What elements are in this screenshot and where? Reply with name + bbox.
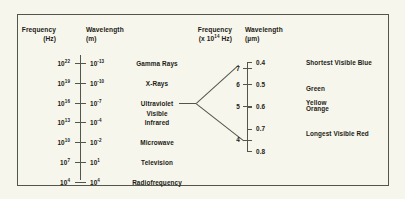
right-frequency-header-suffix: Hz) <box>220 35 233 42</box>
left-frequency-exponent: 10 <box>65 138 70 143</box>
left-wavelength-value: 104 <box>90 179 100 187</box>
spectrum-band-label: Infrared <box>145 119 170 127</box>
left-axis-tick <box>75 122 86 123</box>
left-wavelength-exponent: -10 <box>97 79 104 84</box>
visible-wavelength-tick <box>247 151 252 152</box>
spectrum-band-label: X-Rays <box>146 80 168 88</box>
visible-frequency-value: 5 <box>236 103 240 111</box>
visible-connector-stub <box>179 103 196 104</box>
visible-frequency-value: 4 <box>236 136 240 144</box>
spectrum-band-label: Radiofrequency <box>132 179 182 187</box>
left-wavelength-exponent: 4 <box>97 178 100 183</box>
visible-frequency-value: 7 <box>236 65 240 73</box>
spectrum-band-label-visible: Visible <box>146 110 167 118</box>
left-wavelength-exponent: -2 <box>97 138 101 143</box>
left-frequency-exponent: 22 <box>65 59 70 64</box>
left-wavelength-value: 101 <box>90 159 100 167</box>
left-frequency-header-line2: (Hz) <box>22 35 56 44</box>
visible-frequency-tick <box>243 140 252 141</box>
left-wavelength-header-line1: Wavelength <box>86 26 124 35</box>
left-frequency-header: Frequency (Hz) <box>22 26 56 43</box>
left-frequency-value: 1013 <box>57 119 70 127</box>
left-frequency-value: 1022 <box>57 60 70 68</box>
left-frequency-value: 1016 <box>57 100 70 108</box>
right-wavelength-header: Wavelength (µm) <box>245 26 283 43</box>
visible-wavelength-value: 0.6 <box>256 103 265 111</box>
left-axis-tick <box>75 103 86 104</box>
visible-wavelength-tick <box>247 107 252 108</box>
left-axis-tick <box>75 142 86 143</box>
left-axis-tick <box>75 182 86 183</box>
visible-wavelength-tick <box>247 129 252 130</box>
visible-frequency-tick <box>243 68 252 69</box>
spectrum-band-label: Gamma Rays <box>136 60 178 68</box>
visible-wavelength-value: 0.8 <box>256 148 265 156</box>
left-wavelength-exponent: -13 <box>97 59 104 64</box>
left-wavelength-value: 10-2 <box>90 139 102 147</box>
left-wavelength-value: 10-7 <box>90 100 102 108</box>
left-wavelength-value: 10-4 <box>90 119 102 127</box>
left-frequency-exponent: 4 <box>67 178 70 183</box>
left-axis-tick <box>75 83 86 84</box>
left-axis-tick <box>75 162 86 163</box>
left-frequency-exponent: 19 <box>65 79 70 84</box>
spectrum-band-label: Microwave <box>140 139 174 147</box>
visible-wavelength-tick <box>247 62 252 63</box>
right-frequency-header: Frequency (x 1014 Hz) <box>198 26 232 43</box>
left-wavelength-value: 10-13 <box>90 60 104 68</box>
visible-wavelength-value: 0.5 <box>256 81 265 89</box>
left-wavelength-value: 10-10 <box>90 80 104 88</box>
right-wavelength-header-line1: Wavelength <box>245 26 283 35</box>
left-wavelength-exponent: 1 <box>97 158 100 163</box>
em-spectrum-figure: Frequency (Hz) Wavelength (m) 102210-13G… <box>0 0 405 199</box>
spectrum-band-label: Ultraviolet <box>141 100 173 108</box>
right-frequency-header-prefix: (x 10 <box>199 35 215 42</box>
left-frequency-exponent: 13 <box>65 118 70 123</box>
left-wavelength-exponent: -4 <box>97 118 101 123</box>
visible-color-label: Shortest Visible Blue <box>306 59 372 67</box>
visible-frequency-value: 6 <box>236 81 240 89</box>
visible-color-label: Green <box>306 85 325 93</box>
left-wavelength-header: Wavelength (m) <box>86 26 124 43</box>
visible-color-label: Longest Visible Red <box>306 130 369 138</box>
left-frequency-value: 104 <box>60 179 70 187</box>
left-frequency-exponent: 16 <box>65 98 70 103</box>
left-wavelength-header-line2: (m) <box>86 35 124 44</box>
left-frequency-value: 107 <box>60 159 70 167</box>
visible-color-label: Orange <box>306 105 329 113</box>
visible-wavelength-value: 0.4 <box>256 59 265 67</box>
left-axis-tick <box>75 63 86 64</box>
spectrum-band-label: Television <box>141 159 173 167</box>
left-frequency-value: 1010 <box>57 139 70 147</box>
right-frequency-header-line2: (x 1014 Hz) <box>198 35 232 44</box>
left-wavelength-exponent: -7 <box>97 98 101 103</box>
visible-wavelength-value: 0.7 <box>256 125 265 133</box>
left-frequency-exponent: 7 <box>67 158 70 163</box>
visible-wavelength-tick <box>247 84 252 85</box>
left-frequency-header-line1: Frequency <box>22 26 56 35</box>
right-wavelength-header-line2: (µm) <box>245 35 283 44</box>
left-frequency-value: 1019 <box>57 80 70 88</box>
